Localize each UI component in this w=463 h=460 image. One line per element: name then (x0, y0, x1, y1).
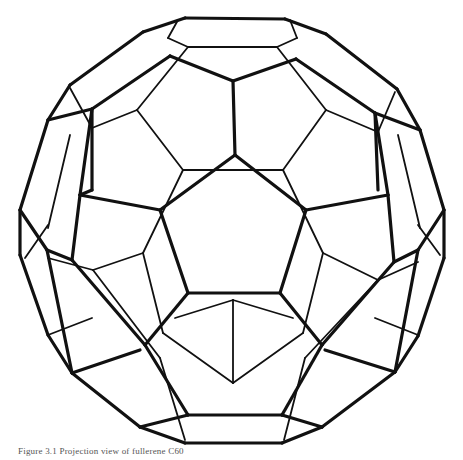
thick-front-edges (20, 18, 444, 443)
figure-caption: Figure 3.1 Projection view of fullerene … (18, 446, 184, 456)
fullerene-diagram (0, 0, 463, 445)
